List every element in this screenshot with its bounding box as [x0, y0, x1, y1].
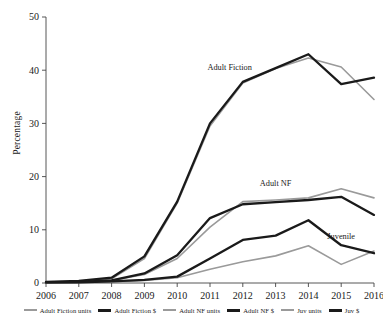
y-axis-tick-label: 50 [29, 11, 39, 22]
legend-swatch-icon [98, 309, 111, 312]
annotation-adult-nf: Adult NF [260, 179, 292, 188]
legend-item: Juv $ [329, 307, 360, 314]
legend-swatch-icon [227, 309, 240, 312]
series-line-adult-fiction [46, 54, 374, 282]
series-line-adult-fiction-units [46, 58, 374, 282]
legend-item-label: Adult NF units [179, 307, 220, 314]
y-axis-tick-label: 40 [29, 65, 39, 76]
legend-item-label: Adult Fiction $ [114, 307, 156, 314]
y-axis-tick-label: 20 [29, 171, 39, 182]
legend-swatch-icon [163, 309, 176, 311]
legend-item: Adult Fiction units [24, 307, 92, 314]
legend-item-label: Juv $ [345, 307, 360, 314]
annotation-adult-fiction: Adult Fiction [207, 63, 252, 72]
legend-item: Adult NF $ [227, 307, 274, 314]
annotation-juvenile: Juvenile [327, 232, 355, 241]
legend-item-label: Adult Fiction units [40, 307, 92, 314]
y-axis-tick-label: 10 [29, 224, 39, 235]
series-line-juv-units [46, 246, 374, 283]
legend-item-label: Juv units [297, 307, 322, 314]
legend-item: Juv units [281, 307, 322, 314]
y-axis-tick-label: 0 [34, 277, 39, 288]
y-axis-title: Percentage [12, 93, 22, 173]
legend-item: Adult NF units [163, 307, 220, 314]
legend-item: Adult Fiction $ [98, 307, 156, 314]
legend-swatch-icon [329, 309, 342, 312]
chart-legend: Adult Fiction unitsAdult Fiction $Adult … [0, 300, 383, 320]
series-line-juv [46, 220, 374, 282]
legend-swatch-icon [24, 309, 37, 311]
chart-container: 0102030405020062007200820092010201120122… [0, 0, 383, 329]
line-chart-svg: 0102030405020062007200820092010201120122… [0, 0, 383, 329]
legend-swatch-icon [281, 309, 294, 311]
y-axis-tick-label: 30 [29, 118, 39, 129]
chart-series [46, 54, 374, 282]
legend-item-label: Adult NF $ [243, 307, 274, 314]
chart-annotations: Adult FictionAdult NFJuvenile [207, 63, 355, 241]
